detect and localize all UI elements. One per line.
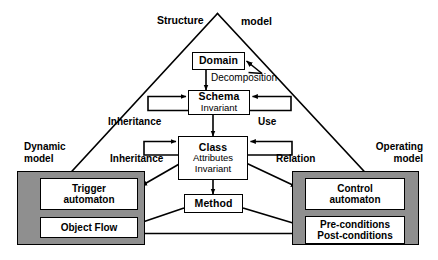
node-trigger-line2: automaton — [63, 194, 114, 205]
corner-label-dynamic-line2: model — [24, 153, 66, 165]
corner-label-operating-line2: model — [376, 153, 423, 165]
node-schema-invariant: Invariant — [201, 103, 237, 114]
node-class[interactable]: Class Attributes Invariant — [178, 136, 248, 180]
node-control-line2: automaton — [329, 194, 380, 205]
title-model: model — [241, 15, 272, 27]
corner-label-operating-model: Operating model — [376, 141, 423, 165]
node-control-line1: Control — [337, 183, 373, 194]
title-structure: Structure — [157, 14, 204, 26]
edge-class-control — [246, 163, 297, 187]
node-method-label: Method — [195, 198, 233, 210]
node-method[interactable]: Method — [184, 194, 243, 213]
edge-schema-use-loop — [250, 97, 291, 111]
node-conditions[interactable]: Pre-conditions Post-conditions — [305, 216, 405, 244]
node-trigger-line1: Trigger — [72, 183, 106, 194]
edge-label-relation-class: Relation — [276, 153, 315, 165]
node-trigger-automaton[interactable]: Trigger automaton — [40, 178, 138, 210]
node-class-invariant: Invariant — [195, 164, 231, 175]
corner-label-dynamic-line1: Dynamic — [24, 141, 66, 153]
node-conditions-line2: Post-conditions — [317, 230, 393, 241]
edge-label-inheritance-schema: Inheritance — [108, 116, 161, 128]
edge-class-trigger — [141, 163, 181, 186]
node-domain-label: Domain — [199, 55, 238, 67]
edge-label-inheritance-class: Inheritance — [110, 153, 163, 165]
edge-schema-inheritance-loop — [148, 97, 188, 111]
corner-label-dynamic-model: Dynamic model — [24, 141, 66, 165]
node-object-flow-label: Object Flow — [61, 222, 118, 233]
edge-label-use-schema: Use — [258, 116, 276, 128]
node-object-flow[interactable]: Object Flow — [40, 217, 138, 238]
edge-label-decomposition: Decomposition — [211, 72, 277, 83]
node-control-automaton[interactable]: Control automaton — [305, 178, 405, 210]
node-domain[interactable]: Domain — [192, 52, 245, 70]
node-conditions-line1: Pre-conditions — [320, 219, 390, 230]
node-schema[interactable]: Schema Invariant — [188, 90, 250, 115]
structure-model-diagram: Structure model Dynamic model Operating … — [0, 0, 438, 260]
corner-label-operating-line1: Operating — [376, 141, 423, 153]
